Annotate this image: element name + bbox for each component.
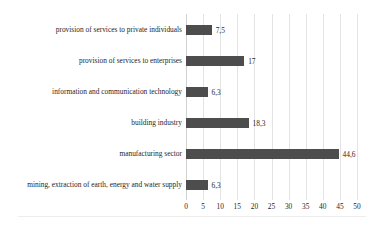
x-tick-label: 5 (201, 202, 205, 211)
bar-row: manufacturing sector44,6 (186, 138, 357, 169)
bar-row: provision of services to private individ… (186, 14, 357, 45)
bar-row: mining, extraction of earth, energy and … (186, 169, 357, 200)
bar: 17 (186, 56, 244, 66)
x-tick-label: 45 (336, 202, 343, 211)
bar-chart-figure: provision of services to private individ… (0, 0, 375, 228)
bar-rect (186, 25, 212, 35)
bar-row: information and communication technology… (186, 76, 357, 107)
plot-area: provision of services to private individ… (186, 14, 357, 200)
bar-rect (186, 87, 208, 97)
x-tick-label: 30 (285, 202, 292, 211)
bar-value-label: 7,5 (216, 25, 225, 34)
bar-rect (186, 118, 249, 128)
bar-row: building industry18,3 (186, 107, 357, 138)
category-label: provision of services to enterprises (4, 56, 182, 65)
x-tick-label: 25 (268, 202, 275, 211)
x-axis-tick-labels: 05101520253035404550 (186, 202, 357, 214)
bar-rect (186, 180, 208, 190)
bar-rect (186, 56, 244, 66)
x-tick-label: 35 (302, 202, 309, 211)
bar-value-label: 18,3 (253, 118, 266, 127)
bar-value-label: 6,3 (212, 87, 221, 96)
x-tick-label: 15 (234, 202, 241, 211)
gridline (357, 14, 358, 200)
bar: 44,6 (186, 149, 339, 159)
bar-value-label: 44,6 (343, 149, 356, 158)
bar-rect (186, 149, 339, 159)
bar-value-label: 6,3 (212, 180, 221, 189)
category-label: manufacturing sector (4, 149, 182, 158)
bar: 18,3 (186, 118, 249, 128)
bar-row: provision of services to enterprises17 (186, 45, 357, 76)
bar: 6,3 (186, 180, 208, 190)
bar-value-label: 17 (248, 56, 255, 65)
bar: 7,5 (186, 25, 212, 35)
category-label: building industry (4, 118, 182, 127)
category-label: mining, extraction of earth, energy and … (4, 180, 182, 189)
x-tick-label: 50 (353, 202, 360, 211)
category-label: information and communication technology (4, 87, 182, 96)
x-tick-label: 40 (319, 202, 326, 211)
bar: 6,3 (186, 87, 208, 97)
x-tick-label: 20 (251, 202, 258, 211)
bottom-rule (18, 216, 366, 217)
x-tick-label: 10 (216, 202, 223, 211)
x-tick-label: 0 (184, 202, 188, 211)
category-label: provision of services to private individ… (4, 25, 182, 34)
